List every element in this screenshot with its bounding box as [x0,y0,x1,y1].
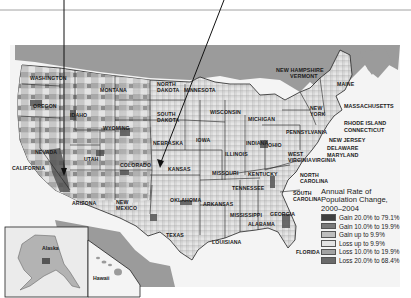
label-maine: Maine [337,82,354,88]
label-nevada: Nevada [35,150,57,156]
label-nebraska: Nebraska [153,141,183,147]
label-missouri: Missouri [212,171,238,177]
label-hawaii: Hawaii [93,275,109,281]
label-illinois: Illinois [225,152,248,158]
label-idaho: Idaho [70,113,87,119]
label-kentucky: Kentucky [248,172,278,178]
legend-item: Gain up to 9.9% [321,230,411,239]
label-alaska: Alaska [42,245,59,251]
label-west-virginia: WestVirginia [288,152,312,163]
label-colorado: Colorado [120,163,151,169]
label-georgia: Georgia [270,212,295,218]
label-mississippi: Mississippi [230,213,262,219]
legend-swatch [321,249,336,256]
legend-item: Loss 20.0% to 68.4% [321,256,411,265]
label-montana: Montana [100,88,127,94]
legend-item: Loss up to 9.9% [321,239,411,248]
label-iowa: Iowa [196,138,210,144]
label-massachusetts: Massachusetts [344,104,394,110]
label-arkansas: Arkansas [203,202,233,208]
legend-swatch [321,231,336,238]
label-kansas: Kansas [168,167,191,173]
label-minnesota: Minnesota [184,88,216,94]
label-rhode-island: Rhode Island [344,121,386,127]
label-wisconsin: Wisconsin [210,110,241,116]
legend-item: Gain 10.0% to 19.9% [321,222,411,231]
label-oregon: Oregon [33,104,57,110]
legend-swatch [321,240,336,247]
label-washington: Washington [30,76,67,82]
label-new-york: NewYork [310,106,325,117]
label-new-jersey: New Jersey [329,138,365,144]
population-change-map: Washington Oregon California Nevada Idah… [0,0,411,298]
label-florida: Florida [296,250,320,256]
label-ohio: Ohio [268,143,282,149]
label-new-mexico: NewMexico [116,200,137,211]
label-vermont: Vermont [290,74,318,80]
label-wyoming: Wyoming [103,126,130,132]
legend-swatch [321,257,336,264]
legend-item: Gain 20.0% to 79.1% [321,213,411,222]
label-virginia: Virginia [312,158,336,164]
label-pennsylvania: Pennsylvania [286,130,327,136]
label-oklahoma: Oklahoma [170,198,201,204]
label-michigan: Michigan [248,117,275,123]
label-california: California [12,166,45,172]
label-louisiana: Louisiana [212,240,241,246]
label-south-dakota: SouthDakota [157,112,179,123]
label-alabama: Alabama [248,222,275,228]
legend-swatch [321,223,336,230]
label-texas: Texas [166,233,184,239]
label-connecticut: Connecticut [344,128,384,134]
label-maryland: Maryland [327,153,358,159]
label-tennessee: Tennessee [232,186,264,192]
label-south-carolina: SouthCarolina [293,191,321,202]
label-north-dakota: NorthDakota [157,82,179,93]
label-arizona: Arizona [72,201,96,207]
legend-item: Loss 10.0% to 19.9% [321,248,411,257]
legend-swatch [321,214,336,221]
map-legend: Annual Rate of Population Change, 2000–2… [321,188,411,265]
label-delaware: Delaware [327,146,358,152]
legend-title: Annual Rate of Population Change, 2000–2… [321,188,411,213]
label-utah: Utah [84,157,98,163]
label-indiana: Indiana [246,141,268,147]
label-north-carolina: NorthCarolina [300,173,328,184]
